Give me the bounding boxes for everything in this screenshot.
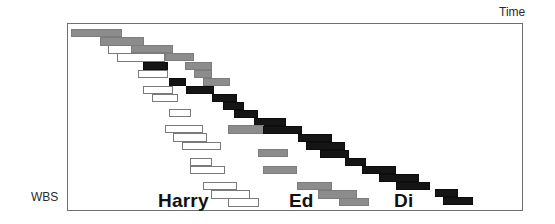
- task-bar-di: [223, 102, 244, 110]
- task-bar-di: [212, 94, 237, 102]
- task-bar-di: [443, 197, 473, 205]
- task-bar-di: [234, 110, 258, 118]
- task-bar-di: [169, 78, 186, 86]
- task-bar-ed: [165, 53, 194, 61]
- task-bar-harry: [190, 166, 225, 174]
- task-bar-di: [186, 86, 214, 94]
- task-bar-harry: [143, 86, 173, 94]
- task-bar-harry: [117, 53, 165, 62]
- task-bar-harry: [138, 70, 168, 78]
- task-bar-harry: [169, 109, 191, 117]
- task-bar-di: [362, 166, 396, 174]
- task-bar-ed: [339, 198, 369, 206]
- task-bar-harry: [228, 198, 259, 207]
- task-bar-di: [320, 150, 349, 158]
- x-axis-label: Time: [499, 5, 525, 19]
- task-bar-ed: [71, 29, 122, 37]
- task-bar-ed: [203, 78, 230, 86]
- task-bar-di: [435, 189, 458, 197]
- task-bar-di: [298, 134, 332, 142]
- owner-label-di: Di: [394, 190, 413, 212]
- gantt-diagram: Time WBS HarryEdDi: [0, 0, 555, 224]
- task-bar-di: [306, 142, 345, 150]
- owner-label-harry: Harry: [158, 190, 209, 212]
- task-bar-di: [345, 158, 366, 166]
- task-bar-harry: [165, 125, 203, 133]
- task-bar-harry: [203, 182, 237, 190]
- task-bar-di: [396, 182, 430, 190]
- task-bar-di: [143, 62, 168, 70]
- task-bar-harry: [190, 158, 212, 166]
- task-bar-ed: [194, 70, 212, 78]
- task-bar-di: [263, 126, 302, 134]
- task-bar-ed: [131, 45, 173, 53]
- task-bar-harry: [182, 142, 221, 150]
- y-axis-label: WBS: [31, 190, 58, 204]
- task-bar-ed: [297, 182, 332, 190]
- task-bar-ed: [263, 166, 297, 174]
- task-bar-ed: [185, 62, 212, 70]
- task-bar-ed: [228, 125, 264, 134]
- task-bar-di: [379, 174, 419, 182]
- task-bar-harry: [152, 94, 178, 102]
- task-bar-harry: [173, 133, 207, 142]
- task-bar-ed: [258, 149, 288, 157]
- owner-label-ed: Ed: [289, 190, 314, 212]
